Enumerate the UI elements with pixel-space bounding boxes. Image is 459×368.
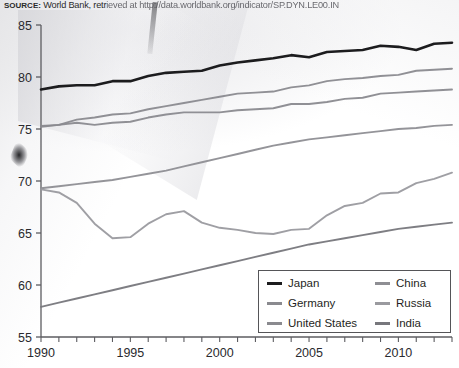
legend-swatch-icon <box>267 302 282 305</box>
chart-root: SOURCE: World Bank, retrieved at http://… <box>0 0 459 368</box>
legend-item-china: China <box>375 273 459 293</box>
y-tick-label: 55 <box>18 331 32 345</box>
y-tick-label: 60 <box>18 279 32 293</box>
y-tick-label: 70 <box>18 175 32 189</box>
source-citation: SOURCE: World Bank, retrieved at http://… <box>4 0 339 10</box>
x-tick-label: 2005 <box>295 346 323 360</box>
legend-swatch-icon <box>375 282 390 285</box>
x-tick-label: 2010 <box>384 346 412 360</box>
series-line-china <box>41 125 452 188</box>
legend-item-india: India <box>375 313 459 333</box>
legend-label: Russia <box>396 297 431 309</box>
source-prefix: World Bank, retr <box>43 0 106 10</box>
y-tick-label: 85 <box>18 19 32 33</box>
legend-item-united-states: United States <box>267 313 375 333</box>
source-label: SOURCE: <box>4 1 41 10</box>
source-url: ieved at http://data.worldbank.org/indic… <box>106 0 339 10</box>
legend-label: China <box>396 277 426 289</box>
legend-item-japan: Japan <box>267 273 375 293</box>
y-tick-label: 80 <box>18 71 32 85</box>
y-tick-label: 75 <box>18 123 32 137</box>
chart-legend: JapanChinaGermanyRussiaUnited StatesIndi… <box>258 270 451 333</box>
legend-label: Germany <box>288 297 335 309</box>
legend-label: United States <box>288 317 357 329</box>
legend-swatch-icon <box>267 282 282 285</box>
legend-label: India <box>396 317 421 329</box>
legend-swatch-icon <box>267 322 282 325</box>
x-axis-tick-labels: 19901995200020052010 <box>27 346 412 360</box>
legend-label: Japan <box>288 277 319 289</box>
legend-grid: JapanChinaGermanyRussiaUnited StatesIndi… <box>259 271 450 332</box>
series-group <box>41 43 452 307</box>
series-line-germany <box>41 69 452 126</box>
series-line-japan <box>41 43 452 90</box>
x-tick-label: 2000 <box>206 346 234 360</box>
series-line-united-states <box>41 89 452 126</box>
legend-item-germany: Germany <box>267 293 375 313</box>
legend-item-russia: Russia <box>375 293 459 313</box>
y-tick-label: 65 <box>18 227 32 241</box>
x-tick-label: 1995 <box>116 346 144 360</box>
y-axis-tick-labels: 55606570758085 <box>18 19 32 345</box>
legend-swatch-icon <box>375 322 390 325</box>
legend-swatch-icon <box>375 302 390 305</box>
series-line-russia <box>41 173 452 239</box>
x-tick-label: 1990 <box>27 346 55 360</box>
